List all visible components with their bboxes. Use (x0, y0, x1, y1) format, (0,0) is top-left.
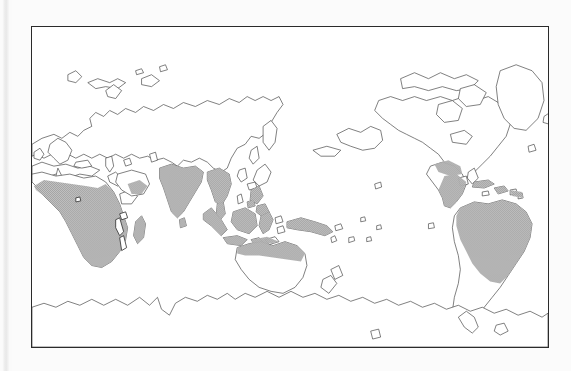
figure-page (0, 0, 571, 371)
lake-chad-dot (76, 197, 81, 202)
scan-edge-artifact-secondary (9, 0, 12, 371)
world-map (32, 27, 548, 347)
pacific-island-dot-1 (361, 217, 366, 222)
galapagos-dot (428, 223, 434, 229)
lake-victoria (120, 212, 128, 220)
southern-ocean-island (371, 329, 381, 339)
jamaica (482, 191, 489, 196)
pacific-island-dot-3 (367, 237, 372, 242)
pacific-island-dot-2 (377, 225, 382, 230)
scan-edge-artifact (2, 0, 9, 371)
map-frame (31, 26, 549, 348)
